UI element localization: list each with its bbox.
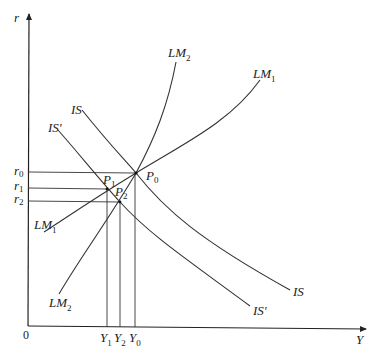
is-prime-end-label: IS'	[252, 303, 267, 318]
p2-point	[119, 201, 122, 204]
p0-label: P0	[145, 168, 159, 185]
p2-label-sub: 2	[123, 191, 128, 201]
lm2-bottom-label: LM2	[48, 295, 72, 313]
r0-guide	[28, 172, 136, 173]
r1-guide	[28, 188, 107, 189]
p2-label-text: P	[114, 184, 123, 199]
is-prime-curve	[58, 130, 250, 306]
is-curve	[82, 110, 290, 290]
r-axis-label: r	[14, 10, 20, 25]
is-end-label: IS	[292, 284, 304, 299]
y0-label: Y0	[129, 330, 141, 348]
lm1-top-label: LM1	[252, 66, 276, 84]
lm2-bottom-label-sub: 2	[67, 303, 72, 313]
islm-diagram: r Y 0 IS IS IS' IS' LM1 LM1 LM2 LM2 P0 P…	[0, 0, 382, 356]
lm1-bottom-label-text: LM	[33, 217, 53, 232]
y2-label: Y2	[114, 330, 126, 348]
r0-label: r0	[14, 163, 24, 179]
y-axis	[28, 326, 366, 329]
p1-point	[106, 188, 109, 191]
p0-point	[134, 171, 137, 174]
is-label: IS	[70, 102, 82, 117]
y2-label-sub: 2	[121, 338, 126, 348]
lm1-top-label-text: LM	[252, 66, 272, 81]
p2-label: P2	[114, 184, 127, 201]
lm1-top-label-sub: 1	[271, 74, 276, 84]
r2-label-sub: 2	[19, 197, 24, 207]
lm2-top-label-text: LM	[167, 45, 187, 60]
r0-label-sub: 0	[19, 169, 24, 179]
p0-label-text: P	[145, 168, 154, 183]
y-axis-label: Y	[356, 332, 365, 347]
lm1-bottom-label: LM1	[33, 217, 57, 235]
lm2-top-label-sub: 2	[186, 53, 191, 63]
p1-label: P1	[102, 172, 115, 189]
lm2-top-label: LM2	[167, 45, 191, 63]
p1-label-text: P	[102, 172, 111, 187]
y1-label-sub: 1	[107, 338, 112, 348]
r1-label-sub: 1	[19, 184, 24, 194]
lm1-bottom-label-sub: 1	[52, 225, 57, 235]
lm2-bottom-label-text: LM	[48, 295, 68, 310]
y0-label-sub: 0	[136, 338, 141, 348]
origin-label: 0	[23, 328, 29, 342]
y1-label: Y1	[100, 330, 112, 348]
r-axis	[28, 14, 29, 326]
r2-guide	[28, 201, 120, 202]
is-prime-label: IS'	[47, 120, 62, 135]
p0-label-sub: 0	[154, 175, 159, 185]
